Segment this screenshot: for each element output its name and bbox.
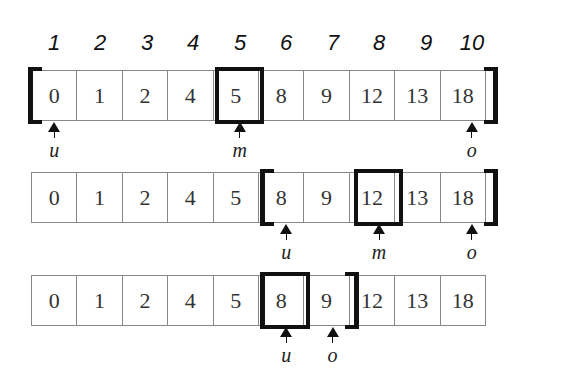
pointer-m: m xyxy=(230,122,250,160)
arrow-stem xyxy=(286,234,287,240)
arrow-stem xyxy=(471,234,472,240)
arrow-stem xyxy=(239,132,240,138)
index-label: 7 xyxy=(310,30,356,56)
array-cell: 4 xyxy=(167,172,213,223)
middle-element-highlight xyxy=(354,169,403,226)
pointer-label: m xyxy=(369,242,389,262)
array-row: 0124589121318 xyxy=(31,275,486,326)
pointer-label: u xyxy=(276,242,296,262)
arrow-up-icon xyxy=(327,327,339,337)
arrow-up-icon xyxy=(280,224,292,234)
index-label: 9 xyxy=(403,30,449,56)
array-row: 0124589121318 xyxy=(31,172,486,223)
array-cell: 9 xyxy=(303,172,349,223)
array-cell: 0 xyxy=(31,275,77,326)
arrow-stem xyxy=(379,234,380,240)
binary-search-diagram: 1 2 3 4 5 6 7 8 9 10 0124589121318umo012… xyxy=(0,0,563,379)
arrow-up-icon xyxy=(48,122,60,132)
index-label: 8 xyxy=(356,30,402,56)
array-cell: 13 xyxy=(394,70,440,121)
pointer-label: u xyxy=(276,345,296,365)
left-bracket-icon xyxy=(28,67,42,124)
arrow-stem xyxy=(471,132,472,138)
left-bracket-icon xyxy=(260,169,274,226)
arrow-up-icon xyxy=(466,224,478,234)
arrow-up-icon xyxy=(234,122,246,132)
array-cell: 5 xyxy=(213,275,259,326)
pointer-u: u xyxy=(276,327,296,365)
index-label: 4 xyxy=(170,30,216,56)
index-label: 5 xyxy=(217,30,263,56)
array-cell: 4 xyxy=(167,275,213,326)
pointer-label: m xyxy=(230,140,250,160)
array-cell: 5 xyxy=(213,172,259,223)
index-label: 2 xyxy=(77,30,123,56)
pointer-u: u xyxy=(44,122,64,160)
array-cell: 1 xyxy=(76,275,122,326)
array-cell: 9 xyxy=(303,70,349,121)
array-cell: 0 xyxy=(31,172,77,223)
pointer-u: u xyxy=(276,224,296,262)
arrow-stem xyxy=(286,337,287,343)
pointer-label: u xyxy=(44,140,64,160)
pointer-o: o xyxy=(323,327,343,365)
array-cell: 18 xyxy=(440,70,486,121)
array-cell: 13 xyxy=(394,275,440,326)
right-bracket-icon xyxy=(484,67,498,124)
index-label: 1 xyxy=(31,30,77,56)
right-bracket-icon xyxy=(484,169,498,226)
array-cell: 18 xyxy=(440,172,486,223)
pointer-label: o xyxy=(323,345,343,365)
arrow-up-icon xyxy=(466,122,478,132)
array-cell: 2 xyxy=(122,275,168,326)
array-cell: 2 xyxy=(122,172,168,223)
array-cell: 1 xyxy=(76,172,122,223)
array-cell: 1 xyxy=(76,70,122,121)
pointer-o: o xyxy=(462,122,482,160)
pointer-m: m xyxy=(369,224,389,262)
arrow-up-icon xyxy=(373,224,385,234)
arrow-up-icon xyxy=(280,327,292,337)
index-label: 3 xyxy=(124,30,170,56)
array-cell: 18 xyxy=(440,275,486,326)
pointer-label: o xyxy=(462,242,482,262)
right-bracket-icon xyxy=(345,272,359,329)
array-cell: 12 xyxy=(349,70,395,121)
arrow-stem xyxy=(54,132,55,138)
index-label: 10 xyxy=(449,30,495,56)
middle-element-highlight xyxy=(215,67,264,124)
array-cell: 8 xyxy=(258,70,304,121)
index-label: 6 xyxy=(263,30,309,56)
pointer-label: o xyxy=(462,140,482,160)
array-cell: 4 xyxy=(167,70,213,121)
arrow-stem xyxy=(332,337,333,343)
pointer-o: o xyxy=(462,224,482,262)
left-bracket-icon xyxy=(260,272,274,329)
array-cell: 2 xyxy=(122,70,168,121)
